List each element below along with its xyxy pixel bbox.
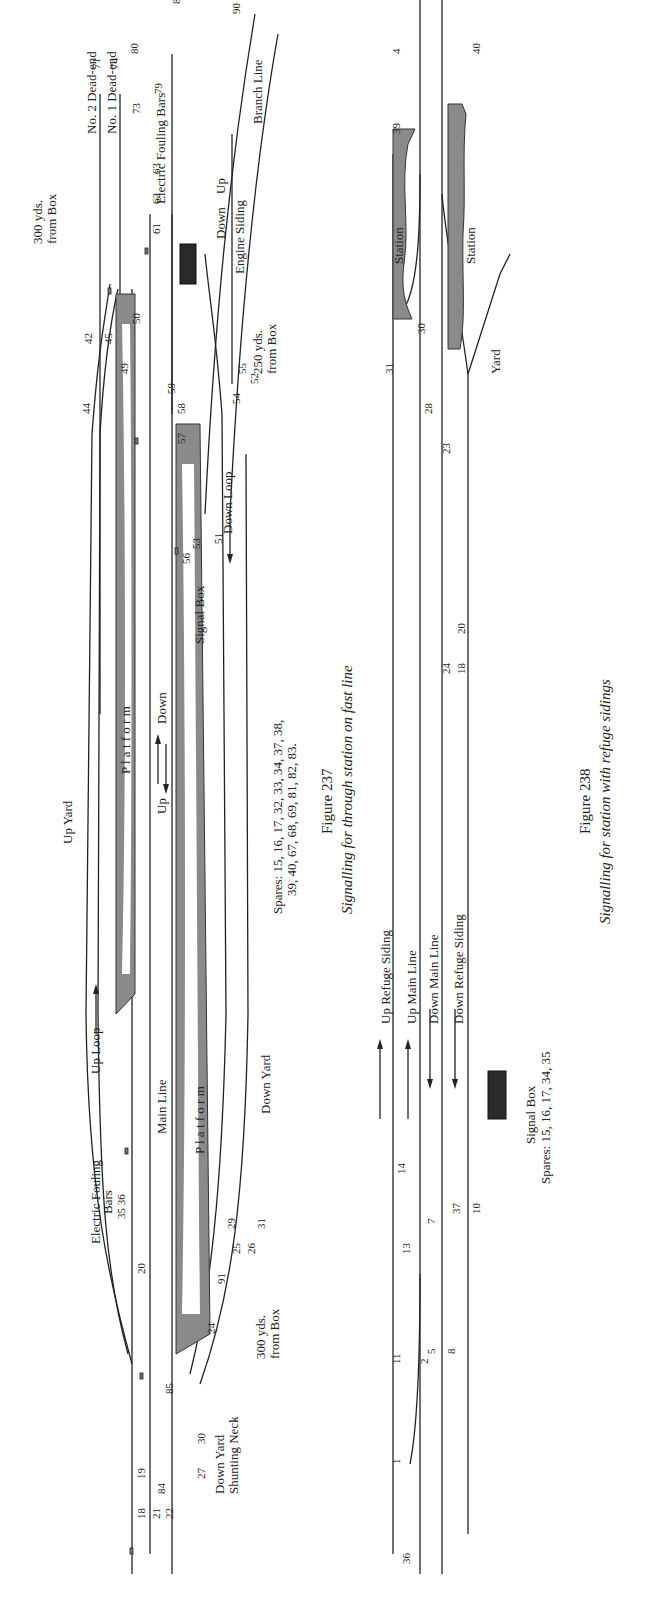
svg-text:57: 57	[175, 433, 187, 445]
svg-text:40: 40	[470, 43, 482, 55]
label-signal-box: Signal Box	[192, 585, 207, 644]
page-canvas: Up Yard Up Loop P l a t f o r m Main Lin…	[0, 0, 645, 1614]
spares-237-line1: Spares: 15, 16, 17, 32, 33, 34, 37, 38,	[270, 720, 285, 914]
label-300-bottom-2: from Box	[267, 1308, 282, 1359]
label-300-top-2: from Box	[44, 193, 59, 244]
svg-text:31: 31	[383, 363, 395, 374]
label-250-1: 250 yds.	[250, 330, 265, 374]
figure-237-caption: Signalling for through station on fast l…	[339, 665, 355, 914]
label-up-refuge-siding: Up Refuge Siding	[378, 930, 393, 1024]
svg-text:71: 71	[90, 58, 102, 69]
svg-text:30: 30	[415, 323, 427, 335]
svg-text:30: 30	[195, 1433, 207, 1445]
svg-text:31: 31	[255, 1218, 267, 1229]
label-engine-siding: Engine Siding	[232, 199, 247, 274]
svg-text:21: 21	[150, 1508, 162, 1519]
svg-text:23: 23	[440, 443, 452, 455]
svg-text:58: 58	[175, 403, 187, 415]
svg-text:7: 7	[425, 1218, 437, 1224]
svg-text:39: 39	[390, 123, 402, 135]
svg-text:27: 27	[195, 1468, 207, 1480]
svg-text:44: 44	[80, 403, 92, 415]
figure-238-diagram: Up Refuge Siding Up Main Line Down Main …	[377, 0, 553, 1574]
svg-text:56: 56	[180, 553, 192, 565]
svg-text:88: 88	[170, 0, 182, 4]
svg-text:91: 91	[215, 1273, 227, 1284]
svg-text:36: 36	[400, 1553, 412, 1565]
figure-238-caption: Signalling for station with refuge sidin…	[597, 679, 613, 924]
svg-text:42: 42	[82, 333, 94, 344]
label-up-loop: Up Loop	[88, 1027, 103, 1074]
svg-text:84: 84	[155, 1483, 167, 1495]
label-300-top-1: 300 yds.	[30, 200, 45, 244]
svg-text:73: 73	[130, 103, 142, 115]
label-efb-left-2: Bars	[100, 1190, 115, 1214]
svg-text:80: 80	[128, 43, 140, 55]
svg-text:63: 63	[150, 163, 162, 175]
svg-text:2: 2	[418, 1359, 430, 1365]
svg-text:25: 25	[230, 1243, 242, 1255]
station-down	[448, 104, 466, 349]
label-down-yard: Down Yard	[258, 1054, 273, 1114]
label-main-line: Main Line	[154, 1079, 169, 1134]
label-platform-down: P l a t f o r m	[192, 1086, 207, 1154]
svg-text:13: 13	[400, 1243, 412, 1255]
svg-text:54: 54	[230, 393, 242, 405]
svg-text:59: 59	[165, 383, 177, 395]
svg-text:37: 37	[450, 1203, 462, 1215]
label-station-down: Station	[463, 227, 478, 264]
svg-text:20: 20	[135, 1263, 147, 1275]
svg-text:52: 52	[248, 373, 260, 384]
svg-text:51: 51	[212, 533, 224, 544]
svg-text:19: 19	[135, 1468, 147, 1480]
svg-text:18: 18	[135, 1508, 147, 1520]
svg-text:50: 50	[130, 313, 142, 325]
signal-box-237	[180, 244, 196, 284]
label-down-yard-shunting-1: Down Yard	[212, 1434, 227, 1494]
svg-text:4: 4	[390, 48, 402, 54]
label-up: Up	[154, 798, 169, 814]
svg-text:18: 18	[455, 663, 467, 675]
label-35-36: 35 36	[115, 1194, 127, 1219]
label-electric-fouling-bars: Electric Fouling Bars	[153, 93, 168, 204]
svg-text:85: 85	[163, 1383, 175, 1395]
signal-box-238	[488, 1071, 506, 1119]
spares-237-line2: 39, 40, 67, 68, 69, 81, 82, 83.	[284, 743, 299, 896]
label-yard: Yard	[488, 349, 503, 374]
svg-text:90: 90	[230, 3, 242, 15]
figure-237-diagram: Up Yard Up Loop P l a t f o r m Main Lin…	[30, 0, 282, 1574]
svg-text:79: 79	[152, 83, 164, 95]
svg-text:22: 22	[163, 1508, 175, 1519]
svg-text:29: 29	[225, 1218, 237, 1230]
svg-text:5: 5	[425, 1348, 437, 1354]
svg-text:10: 10	[470, 1203, 482, 1215]
label-platform-up: P l a t f o r m	[118, 706, 133, 774]
svg-text:45: 45	[102, 333, 114, 345]
svg-text:62: 62	[150, 193, 162, 204]
label-down: Down	[154, 692, 169, 724]
figure-237-number: Figure 237	[319, 768, 335, 834]
svg-text:8: 8	[445, 1348, 457, 1354]
label-up-yard: Up Yard	[60, 800, 75, 844]
book-page: Up Yard Up Loop P l a t f o r m Main Lin…	[0, 0, 645, 1614]
label-branch-up: Up	[213, 178, 228, 194]
label-250-2: from Box	[264, 323, 279, 374]
svg-text:14: 14	[395, 1163, 407, 1175]
svg-text:11: 11	[390, 1353, 402, 1364]
spares-238: Spares: 15, 16, 17, 34, 35	[538, 1051, 553, 1184]
label-branch-down: Down	[213, 207, 228, 239]
label-down-refuge-siding: Down Refuge Siding	[451, 914, 466, 1024]
svg-text:20: 20	[455, 623, 467, 635]
track-crossover-1	[410, 1274, 420, 1464]
svg-text:1: 1	[390, 1459, 402, 1465]
svg-text:28: 28	[422, 403, 434, 415]
label-300-bottom-1: 300 yds.	[253, 1315, 268, 1359]
figure-238-number: Figure 238	[577, 769, 593, 834]
label-signal-box-238: Signal Box	[523, 1085, 538, 1144]
svg-text:24: 24	[440, 663, 452, 675]
label-down-main-line: Down Main Line	[426, 934, 441, 1024]
svg-text:74: 74	[108, 58, 120, 70]
label-branch-line: Branch Line	[250, 59, 265, 124]
svg-text:61: 61	[150, 223, 162, 234]
svg-text:55: 55	[236, 363, 248, 375]
